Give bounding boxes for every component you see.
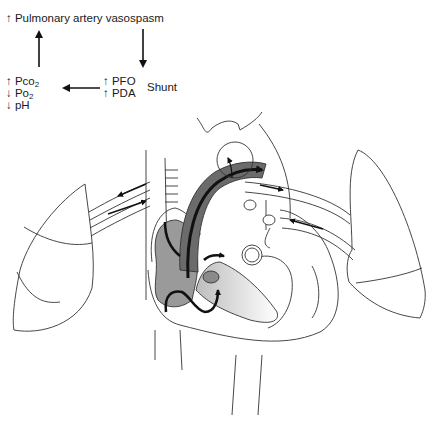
pulmonary-vessels-left <box>89 182 150 236</box>
cycle-arrows <box>39 29 143 88</box>
right-lung <box>347 150 425 318</box>
pulmonary-vessels-right <box>245 182 355 260</box>
heart-lung-illustration <box>0 0 438 428</box>
left-lung <box>13 184 93 331</box>
flow-arrow-from-right-lung <box>290 220 323 229</box>
descending-vessels <box>155 330 262 415</box>
